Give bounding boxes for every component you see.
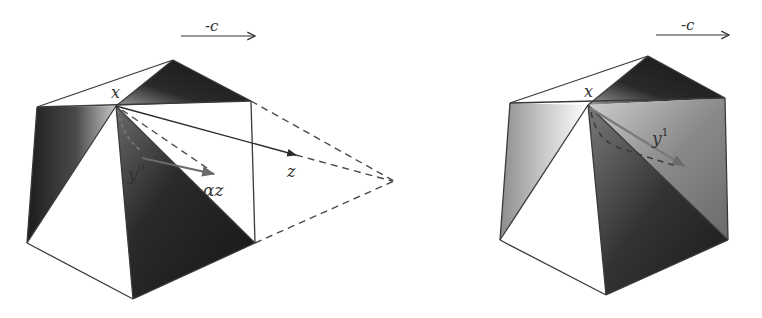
z-label: z (286, 162, 296, 181)
alpha-z-label: αz (203, 180, 224, 200)
y0-base: y (127, 164, 138, 184)
direction-label: -c (681, 16, 695, 34)
y1-superscript: 1 (662, 126, 669, 139)
y1-base: y (651, 128, 662, 148)
y0-superscript: 0 (138, 162, 145, 175)
vertex-x-label: x (111, 83, 120, 102)
figure-canvas: -c (0, 0, 762, 318)
left-polytope: -c (27, 17, 394, 299)
vertex-x-label: x (584, 82, 593, 101)
right-polytope: -c x y1 (500, 16, 729, 295)
direction-label: -c (205, 17, 219, 35)
